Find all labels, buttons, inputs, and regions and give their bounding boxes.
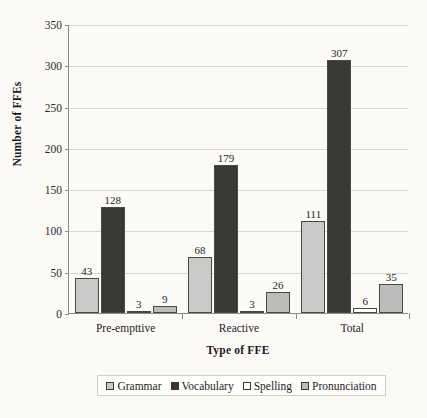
bar-value-label: 26 <box>272 279 283 291</box>
y-axis-title: Number of FFEs <box>11 69 23 179</box>
bar: 26 <box>266 292 290 313</box>
legend-item-label: Vocabulary <box>182 380 234 392</box>
bar-value-label: 3 <box>249 298 255 310</box>
bar-value-label: 68 <box>194 244 205 256</box>
bar-value-label: 307 <box>331 47 348 59</box>
x-axis-group-separator <box>296 313 297 319</box>
y-axis-tick-label: 100 <box>45 225 62 237</box>
legend-item[interactable]: Vocabulary <box>171 380 234 392</box>
legend-item[interactable]: Grammar <box>106 380 161 392</box>
bar-group: 4312839Pre-empttive <box>69 25 182 313</box>
legend-item[interactable]: Pronunciation <box>301 380 377 392</box>
bar-value-label: 9 <box>162 293 168 305</box>
bar-value-label: 179 <box>218 152 235 164</box>
bar-group: 68179326Reactive <box>182 25 295 313</box>
bar: 307 <box>327 60 351 313</box>
bar-value-label: 35 <box>386 271 397 283</box>
legend-item-label: Spelling <box>254 380 292 392</box>
legend-item-label: Pronunciation <box>312 380 377 392</box>
y-axis-tick-mark <box>65 314 69 315</box>
chart-legend: GrammarVocabularySpellingPronunciation <box>97 375 386 396</box>
bar: 9 <box>153 306 177 313</box>
bar: 179 <box>214 165 238 313</box>
bar: 111 <box>301 221 325 313</box>
x-axis-category-label: Total <box>341 322 364 334</box>
bar: 6 <box>353 308 377 313</box>
x-axis-category-label: Reactive <box>219 322 259 334</box>
y-axis-tick-label: 350 <box>45 19 62 31</box>
bar-value-label: 43 <box>81 265 92 277</box>
legend-item-label: Grammar <box>117 380 161 392</box>
bar: 3 <box>127 311 151 313</box>
x-axis-title: Type of FFE <box>68 344 408 356</box>
legend-swatch-icon <box>243 382 251 390</box>
bar-chart: Number of FFEs 0501001502002503003504312… <box>0 0 427 418</box>
bar-group: 111307635Total <box>296 25 409 313</box>
bar-value-label: 6 <box>363 295 369 307</box>
y-axis-tick-label: 250 <box>45 102 62 114</box>
plot-area: 0501001502002503003504312839Pre-empttive… <box>68 25 408 314</box>
legend-swatch-icon <box>171 382 179 390</box>
y-axis-tick-label: 50 <box>51 267 63 279</box>
bar: 128 <box>101 207 125 313</box>
bar: 35 <box>379 284 403 313</box>
x-axis-group-separator <box>409 313 410 319</box>
y-axis-tick-label: 0 <box>56 308 62 320</box>
bar: 68 <box>188 257 212 313</box>
y-axis-tick-label: 300 <box>45 60 62 72</box>
legend-swatch-icon <box>106 382 114 390</box>
bar: 43 <box>75 278 99 314</box>
legend-item[interactable]: Spelling <box>243 380 292 392</box>
x-axis-group-separator <box>182 313 183 319</box>
bar-value-label: 111 <box>305 208 321 220</box>
bar-value-label: 3 <box>136 298 142 310</box>
y-axis-tick-label: 200 <box>45 143 62 155</box>
bar: 3 <box>240 311 264 313</box>
legend-swatch-icon <box>301 382 309 390</box>
x-axis-category-label: Pre-empttive <box>96 322 155 334</box>
bar-value-label: 128 <box>104 194 121 206</box>
y-axis-tick-label: 150 <box>45 184 62 196</box>
